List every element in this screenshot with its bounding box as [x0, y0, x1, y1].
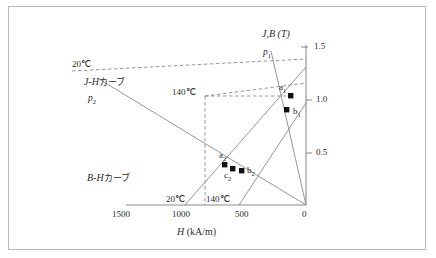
- y-tick-label-0-5: 0.5: [316, 148, 327, 157]
- label-point-c2: c2: [224, 171, 231, 182]
- chart-plot-area: [9, 7, 427, 251]
- x-tick-label-500: 500: [235, 210, 249, 219]
- label-temp-20c-top: 20℃: [72, 60, 91, 69]
- x-tick-label-1000: 1000: [172, 210, 190, 219]
- series-jh-curve-20c: [72, 59, 306, 71]
- point-b2: [239, 168, 244, 173]
- label-point-b2: b2: [247, 166, 255, 177]
- label-temp-140c-mid: 140℃: [172, 88, 196, 97]
- point-a1: [288, 93, 293, 98]
- label-point-b1: b1: [293, 107, 301, 118]
- label-point-a1: a1: [279, 83, 286, 94]
- label-bh-curve: B-Hカーブ: [87, 173, 130, 183]
- label-permeance-p1: p1: [263, 48, 271, 59]
- series-permeance-p1: [271, 51, 306, 205]
- series-bh-curve-20c: [185, 67, 306, 205]
- y-tick-label-1-5: 1.5: [314, 42, 325, 51]
- label-temp-140c-bottom: 140℃: [206, 195, 230, 204]
- point-b1: [284, 107, 289, 112]
- y-axis-title: J,B (T): [262, 29, 290, 39]
- y-tick-label-1-0: 1.0: [316, 95, 327, 104]
- label-jh-curve: J-Hカーブ: [84, 77, 125, 87]
- x-tick-label-1500: 1500: [112, 210, 130, 219]
- point-a2: [222, 162, 227, 167]
- x-tick-label-0: 0: [302, 210, 307, 219]
- figure-frame: J,B (T) 1.5 1.0 0.5 1500 1000 500 0 H (k…: [8, 6, 426, 250]
- label-point-a2: a2: [219, 151, 226, 162]
- x-axis-title: H (kA/m): [177, 227, 216, 237]
- series-bh-curve-140c: [239, 103, 306, 205]
- series-permeance-p2: [99, 79, 306, 205]
- label-permeance-p2: p2: [88, 94, 96, 105]
- label-temp-20c-bottom: 20℃: [166, 195, 185, 204]
